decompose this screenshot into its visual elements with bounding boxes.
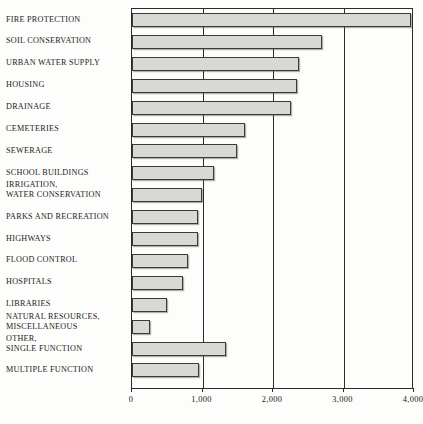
category-label: FLOOD CONTROL	[6, 255, 128, 265]
x-tick-mark	[202, 388, 203, 392]
category-label: OTHER,SINGLE FUNCTION	[6, 334, 128, 354]
bar	[132, 210, 198, 224]
category-label: HOSPITALS	[6, 277, 128, 287]
category-label: HIGHWAYS	[6, 234, 128, 244]
category-label: SOIL CONSERVATION	[6, 36, 128, 46]
x-tick-label: 4,000	[403, 395, 423, 404]
category-label: FIRE PROTECTION	[6, 15, 128, 25]
bar	[132, 57, 299, 71]
x-tick-label: 1,000	[191, 395, 211, 404]
gridline	[344, 9, 345, 388]
category-label: CEMETERIES	[6, 124, 128, 134]
bar	[132, 13, 411, 27]
category-label: NATURAL RESOURCES,MISCELLANEOUS	[6, 312, 128, 332]
bar	[132, 320, 150, 334]
x-tick-label: 0	[129, 395, 134, 404]
category-label: SCHOOL BUILDINGS	[6, 168, 128, 178]
bar	[132, 123, 245, 137]
x-tick-label: 2,000	[262, 395, 282, 404]
category-label: LIBRARIES	[6, 299, 128, 309]
x-tick-mark	[272, 388, 273, 392]
category-label: SEWERAGE	[6, 146, 128, 156]
category-label: MULTIPLE FUNCTION	[6, 365, 128, 375]
x-tick-mark	[343, 388, 344, 392]
bar	[132, 35, 322, 49]
bar	[132, 188, 202, 202]
bar	[132, 101, 291, 115]
category-label: IRRIGATION,WATER CONSERVATION	[6, 180, 128, 200]
bar	[132, 276, 183, 290]
plot-inner	[132, 9, 412, 388]
x-tick-mark	[131, 388, 132, 392]
category-label: PARKS AND RECREATION	[6, 212, 128, 222]
bar	[132, 144, 237, 158]
bar	[132, 79, 297, 93]
bar	[132, 254, 188, 268]
x-tick-mark	[413, 388, 414, 392]
category-label: URBAN WATER SUPPLY	[6, 58, 128, 68]
x-tick-label: 3,000	[332, 395, 352, 404]
bar	[132, 342, 226, 356]
bar	[132, 166, 214, 180]
bar	[132, 363, 199, 377]
bar	[132, 232, 198, 246]
bar	[132, 298, 167, 312]
category-label: HOUSING	[6, 80, 128, 90]
category-label-column: FIRE PROTECTIONSOIL CONSERVATIONURBAN WA…	[0, 0, 128, 424]
category-label: DRAINAGE	[6, 102, 128, 112]
bar-chart: FIRE PROTECTIONSOIL CONSERVATIONURBAN WA…	[0, 0, 423, 424]
plot-area	[131, 8, 413, 388]
